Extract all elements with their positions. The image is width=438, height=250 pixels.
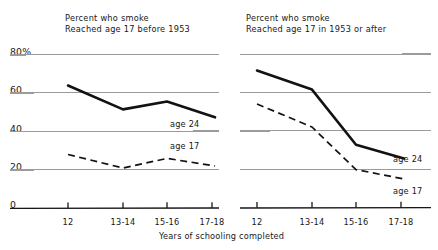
figure-canvas: Percent who smokeReached age 17 before 1… [0,0,438,250]
left-gridline-80 [10,54,219,55]
right-xticks [257,202,401,208]
plot-area [0,0,438,250]
right-series-age17-line [257,104,404,179]
left-series-age24-line [68,86,215,118]
left-xticks [68,202,212,208]
right-gridlines [240,54,431,170]
left-gridlines [10,54,219,170]
left-gridline-40 [10,131,219,132]
left-series-age17-line [68,155,215,169]
